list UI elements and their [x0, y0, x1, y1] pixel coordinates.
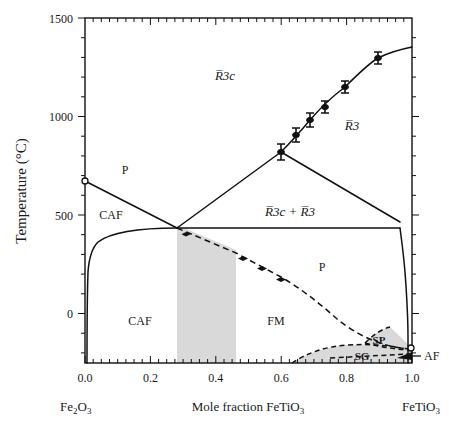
left-endmember-sub2: 3: [87, 406, 92, 416]
label-sp: SP: [373, 334, 386, 346]
phase-diagram-figure: R̅3c R̅3 R̅3c + R̅3 P P CAF CAF FM SP SG…: [0, 0, 449, 434]
open-circle-ilmenite-neel: [408, 345, 414, 351]
x-axis-title: Mole fraction FeTiO3: [192, 399, 305, 416]
phase-diagram-svg: R̅3c R̅3 R̅3c + R̅3 P P CAF CAF FM SP SG…: [0, 0, 449, 434]
x-axis-title-sub: 3: [300, 406, 305, 416]
label-p-upper: P: [122, 163, 129, 177]
open-circle-hematite-neel: [82, 178, 88, 184]
right-endmember-main: FeTiO: [402, 399, 435, 414]
right-endmember-sub: 3: [436, 406, 441, 416]
label-caf-upper: CAF: [99, 208, 123, 222]
label-af: AF: [424, 349, 440, 363]
label-sg: SG: [355, 350, 370, 362]
label-two-phase: R̅3c + R̅3: [264, 204, 315, 219]
y-axis-title: Temperature (°C): [13, 138, 30, 243]
label-r3: R̅3: [344, 118, 360, 133]
label-r3c: R̅3c: [214, 68, 235, 83]
y-tick-label-1000: 1000: [49, 110, 73, 124]
y-axis-title-suffix: C): [13, 138, 30, 153]
x-tick-label-1: 0.2: [143, 371, 158, 385]
left-endmember-main: Fe: [60, 399, 73, 414]
y-tick-label-1500: 1500: [49, 12, 73, 26]
y-tick-label-500: 500: [55, 209, 73, 223]
right-endmember-label: FeTiO3: [402, 399, 440, 416]
x-tick-label-4: 0.8: [339, 371, 354, 385]
label-p-lower: P: [319, 260, 326, 274]
left-endmember-mid: O: [78, 399, 87, 414]
y-tick-label-0: 0: [67, 307, 73, 321]
x-tick-label-2: 0.4: [208, 371, 223, 385]
label-caf-lower: CAF: [128, 314, 152, 328]
y-axis-title-text: Temperature (: [13, 159, 30, 243]
x-axis-title-text: Mole fraction FeTiO: [192, 399, 300, 414]
x-tick-label-0: 0.0: [78, 371, 93, 385]
label-fm: FM: [267, 314, 285, 328]
x-tick-label-3: 0.6: [274, 371, 289, 385]
x-tick-label-5: 1.0: [405, 371, 420, 385]
